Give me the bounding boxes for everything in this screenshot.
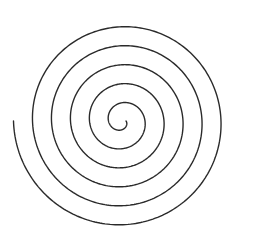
background: [0, 0, 256, 248]
spiral-figure: [0, 0, 256, 248]
spiral-canvas: [0, 0, 256, 248]
